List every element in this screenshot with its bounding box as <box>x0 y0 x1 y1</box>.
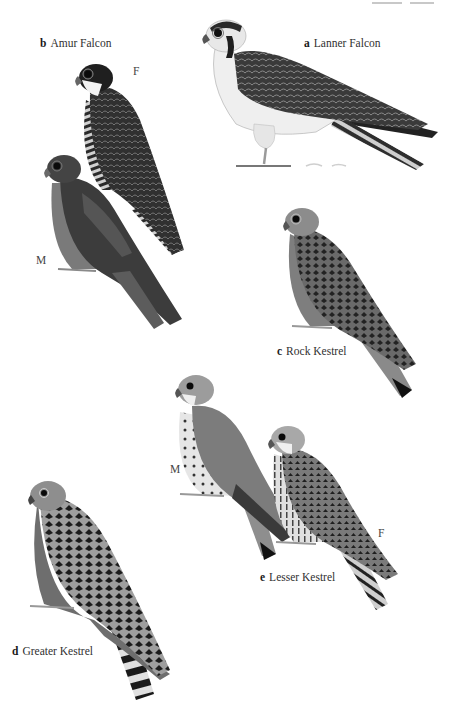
header-rule <box>372 2 402 4</box>
species-name: Greater Kestrel <box>22 645 93 657</box>
species-name: Lanner Falcon <box>314 37 381 49</box>
greater-kestrel-illustration <box>24 480 174 702</box>
header-rule <box>410 2 434 4</box>
sex-label-male: M <box>170 463 180 475</box>
sex-label-female: F <box>378 527 384 539</box>
sex-label-female: F <box>133 65 139 77</box>
species-label-lanner-falcon: aLanner Falcon <box>304 37 381 49</box>
species-label-greater-kestrel: dGreater Kestrel <box>12 645 93 657</box>
species-letter: b <box>40 37 46 49</box>
amur-falcon-male-illustration <box>42 153 187 333</box>
species-label-lesser-kestrel: eLesser Kestrel <box>260 571 335 583</box>
species-name: Amur Falcon <box>50 37 111 49</box>
species-letter: e <box>260 571 265 583</box>
species-label-rock-kestrel: cRock Kestrel <box>277 345 346 357</box>
sex-label-male: M <box>36 254 46 266</box>
species-name: Lesser Kestrel <box>269 571 335 583</box>
species-letter: d <box>12 645 18 657</box>
species-name: Rock Kestrel <box>286 345 346 357</box>
species-label-amur-falcon: bAmur Falcon <box>40 37 111 49</box>
rock-kestrel-illustration <box>280 206 420 398</box>
species-letter: a <box>304 37 310 49</box>
species-letter: c <box>277 345 282 357</box>
lesser-kestrel-female-illustration <box>266 424 406 614</box>
